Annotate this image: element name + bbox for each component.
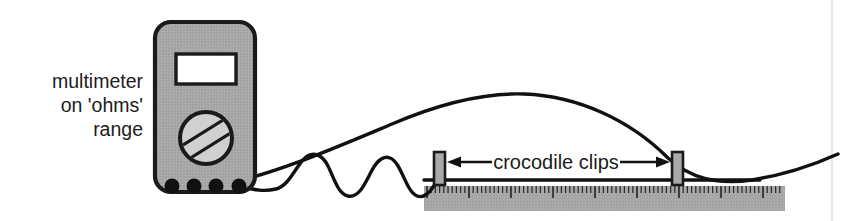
crocodile-clip-right (672, 152, 683, 185)
multimeter-label-line-2: on 'ohms' (61, 94, 143, 116)
crocodile-clip-left (434, 152, 445, 185)
multimeter (155, 22, 255, 194)
multimeter-body (155, 22, 255, 192)
ruler (424, 186, 785, 211)
display-screen (176, 54, 236, 84)
physics-diagram-figure: multimeter on 'ohms' range crocodile cli… (0, 0, 844, 221)
multimeter-label-line-3: range (93, 118, 143, 140)
multimeter-label-line-1: multimeter (52, 70, 144, 92)
ruler-body (424, 186, 785, 211)
diagram-canvas: multimeter on 'ohms' range crocodile cli… (0, 0, 844, 221)
port-1[interactable] (165, 179, 180, 194)
port-3[interactable] (209, 179, 224, 194)
port-2[interactable] (187, 179, 202, 194)
crocodile-clips-label: crocodile clips (493, 151, 619, 173)
port-4[interactable] (232, 179, 247, 194)
